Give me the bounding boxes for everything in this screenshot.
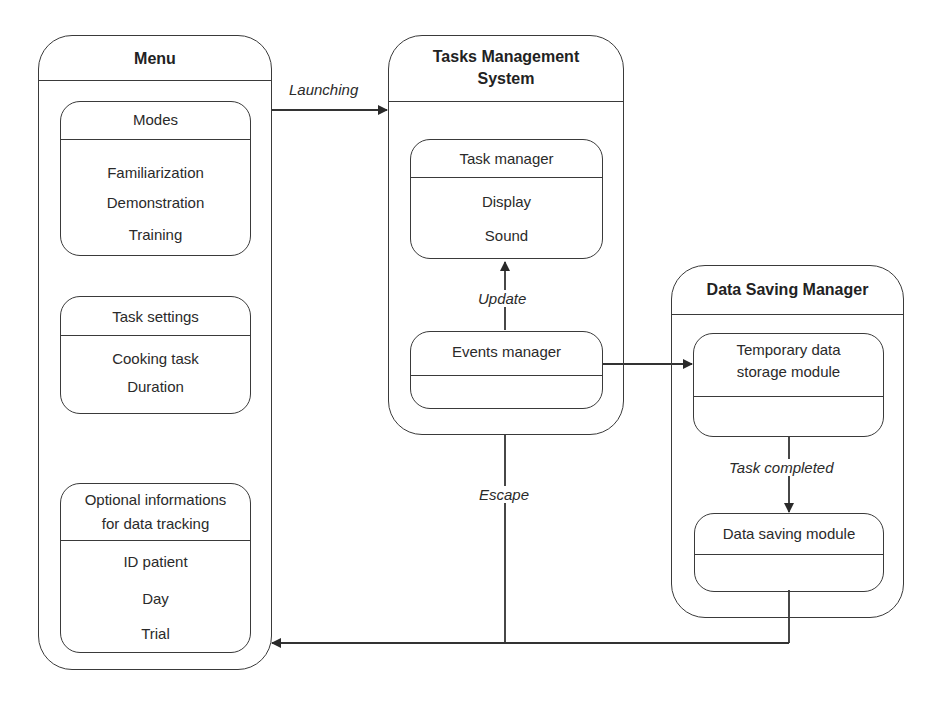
modes-divider — [61, 139, 250, 140]
events-manager-title: Events manager — [411, 342, 602, 361]
temporary-storage-box: Temporary data storage module — [693, 333, 884, 437]
tms-divider — [389, 101, 623, 102]
temp-storage-divider — [694, 396, 883, 397]
optional-info-box: Optional informations for data tracking … — [60, 483, 251, 653]
events-manager-box: Events manager — [410, 331, 603, 409]
events-manager-divider — [411, 375, 602, 376]
setting-duration: Duration — [61, 377, 250, 396]
escape-label: Escape — [478, 486, 530, 503]
dsm-title: Data Saving Manager — [672, 280, 903, 300]
info-trial: Trial — [61, 624, 250, 643]
task-manager-display: Display — [411, 192, 602, 211]
info-day: Day — [61, 589, 250, 608]
mode-training: Training — [61, 225, 250, 244]
data-saving-module-divider — [695, 554, 883, 555]
task-completed-label: Task completed — [728, 459, 835, 476]
tms-title-1: Tasks Management — [389, 47, 623, 67]
task-manager-sound: Sound — [411, 226, 602, 245]
menu-box: Menu Modes Familiarization Demonstration… — [38, 35, 272, 670]
setting-cooking-task: Cooking task — [61, 349, 250, 368]
menu-divider — [39, 80, 271, 81]
temp-storage-title-1: Temporary data — [694, 340, 883, 359]
tasks-management-system-box: Tasks Management System Task manager Dis… — [388, 35, 624, 435]
task-settings-divider — [61, 335, 250, 336]
dsm-divider — [672, 314, 903, 315]
task-manager-box: Task manager Display Sound — [410, 139, 603, 259]
launching-label: Launching — [289, 81, 358, 98]
mode-demonstration: Demonstration — [61, 193, 250, 212]
data-saving-manager-box: Data Saving Manager Temporary data stora… — [671, 265, 904, 618]
task-manager-title: Task manager — [411, 149, 602, 168]
optional-info-divider — [61, 540, 250, 541]
modes-box: Modes Familiarization Demonstration Trai… — [60, 101, 251, 256]
task-settings-title: Task settings — [61, 307, 250, 326]
task-settings-box: Task settings Cooking task Duration — [60, 296, 251, 414]
menu-title: Menu — [39, 49, 271, 69]
optional-info-title-1: Optional informations — [61, 490, 250, 509]
update-label: Update — [477, 290, 527, 307]
optional-info-title-2: for data tracking — [61, 514, 250, 533]
modes-title: Modes — [61, 110, 250, 129]
mode-familiarization: Familiarization — [61, 163, 250, 182]
data-saving-module-title: Data saving module — [695, 524, 883, 543]
temp-storage-title-2: storage module — [694, 362, 883, 381]
tms-title-2: System — [389, 69, 623, 89]
task-manager-divider — [411, 177, 602, 178]
info-id-patient: ID patient — [61, 552, 250, 571]
data-saving-module-box: Data saving module — [694, 513, 884, 592]
